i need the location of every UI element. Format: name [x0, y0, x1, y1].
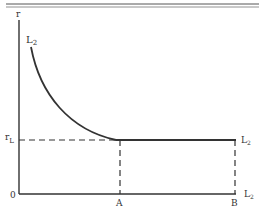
- liquidity-preference-chart: r L2 rL 0 A B L2 L2: [0, 0, 259, 209]
- y-axis-label: r: [16, 9, 21, 19]
- flat-end-label: L2: [241, 135, 251, 146]
- l2-curve: [31, 47, 236, 140]
- curve-top-label: L2: [26, 34, 37, 47]
- x-axis-end-label: L2: [244, 189, 254, 200]
- b-label: B: [231, 198, 238, 208]
- rl-label: rL: [5, 132, 14, 145]
- a-label: A: [115, 198, 123, 208]
- origin-label: 0: [10, 190, 16, 200]
